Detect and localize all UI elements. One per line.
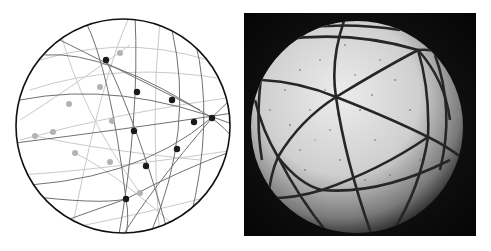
- great-circle-sphere-diagram: [0, 0, 245, 251]
- ball-photograph: [244, 13, 476, 236]
- ball-photo-svg: [244, 13, 476, 236]
- ball: [251, 21, 463, 233]
- sphere-diagram-svg: [0, 0, 245, 251]
